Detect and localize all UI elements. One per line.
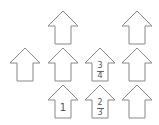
house-r1c2 (47, 10, 79, 45)
house-outline-icon (47, 10, 79, 45)
house-r1c4 (121, 10, 153, 45)
house-r2c2 (47, 47, 79, 82)
house-outline-icon (121, 10, 153, 45)
numerator: 3 (97, 62, 102, 70)
house-r3c3: 23 (84, 84, 116, 119)
numerator: 2 (97, 99, 102, 107)
denominator: 3 (97, 109, 102, 117)
house-number: 1 (55, 99, 71, 117)
house-outline-icon (121, 84, 153, 119)
house-r3c2: 1 (47, 84, 79, 119)
house-outline-icon (121, 47, 153, 82)
house-r2c4 (121, 47, 153, 82)
house-fraction: 23 (92, 99, 108, 117)
house-r2c3: 34 (84, 47, 116, 82)
house-outline-icon (9, 47, 41, 82)
denominator: 4 (97, 72, 102, 80)
house-r3c4 (121, 84, 153, 119)
house-r2c1 (9, 47, 41, 82)
house-fraction: 34 (92, 62, 108, 80)
house-outline-icon (47, 47, 79, 82)
